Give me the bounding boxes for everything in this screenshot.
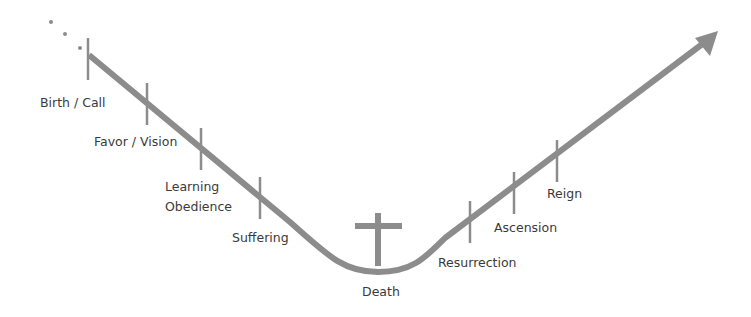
label-suffering: Suffering bbox=[232, 229, 289, 246]
journey-path bbox=[89, 42, 705, 272]
label-learning: Learning bbox=[165, 178, 219, 195]
label-death: Death bbox=[362, 283, 400, 300]
label-resurrection: Resurrection bbox=[438, 254, 517, 271]
ellipsis-dots-icon bbox=[49, 20, 82, 50]
label-ascension: Ascension bbox=[494, 219, 557, 236]
journey-diagram: Birth / Call Favor / Vision Learning Obe… bbox=[0, 0, 751, 317]
label-birth-call: Birth / Call bbox=[40, 94, 106, 111]
cross-icon bbox=[355, 213, 402, 266]
label-favor-vision: Favor / Vision bbox=[94, 133, 177, 150]
diagram-graphic bbox=[0, 0, 751, 317]
label-reign: Reign bbox=[547, 185, 582, 202]
label-obedience: Obedience bbox=[165, 198, 232, 215]
